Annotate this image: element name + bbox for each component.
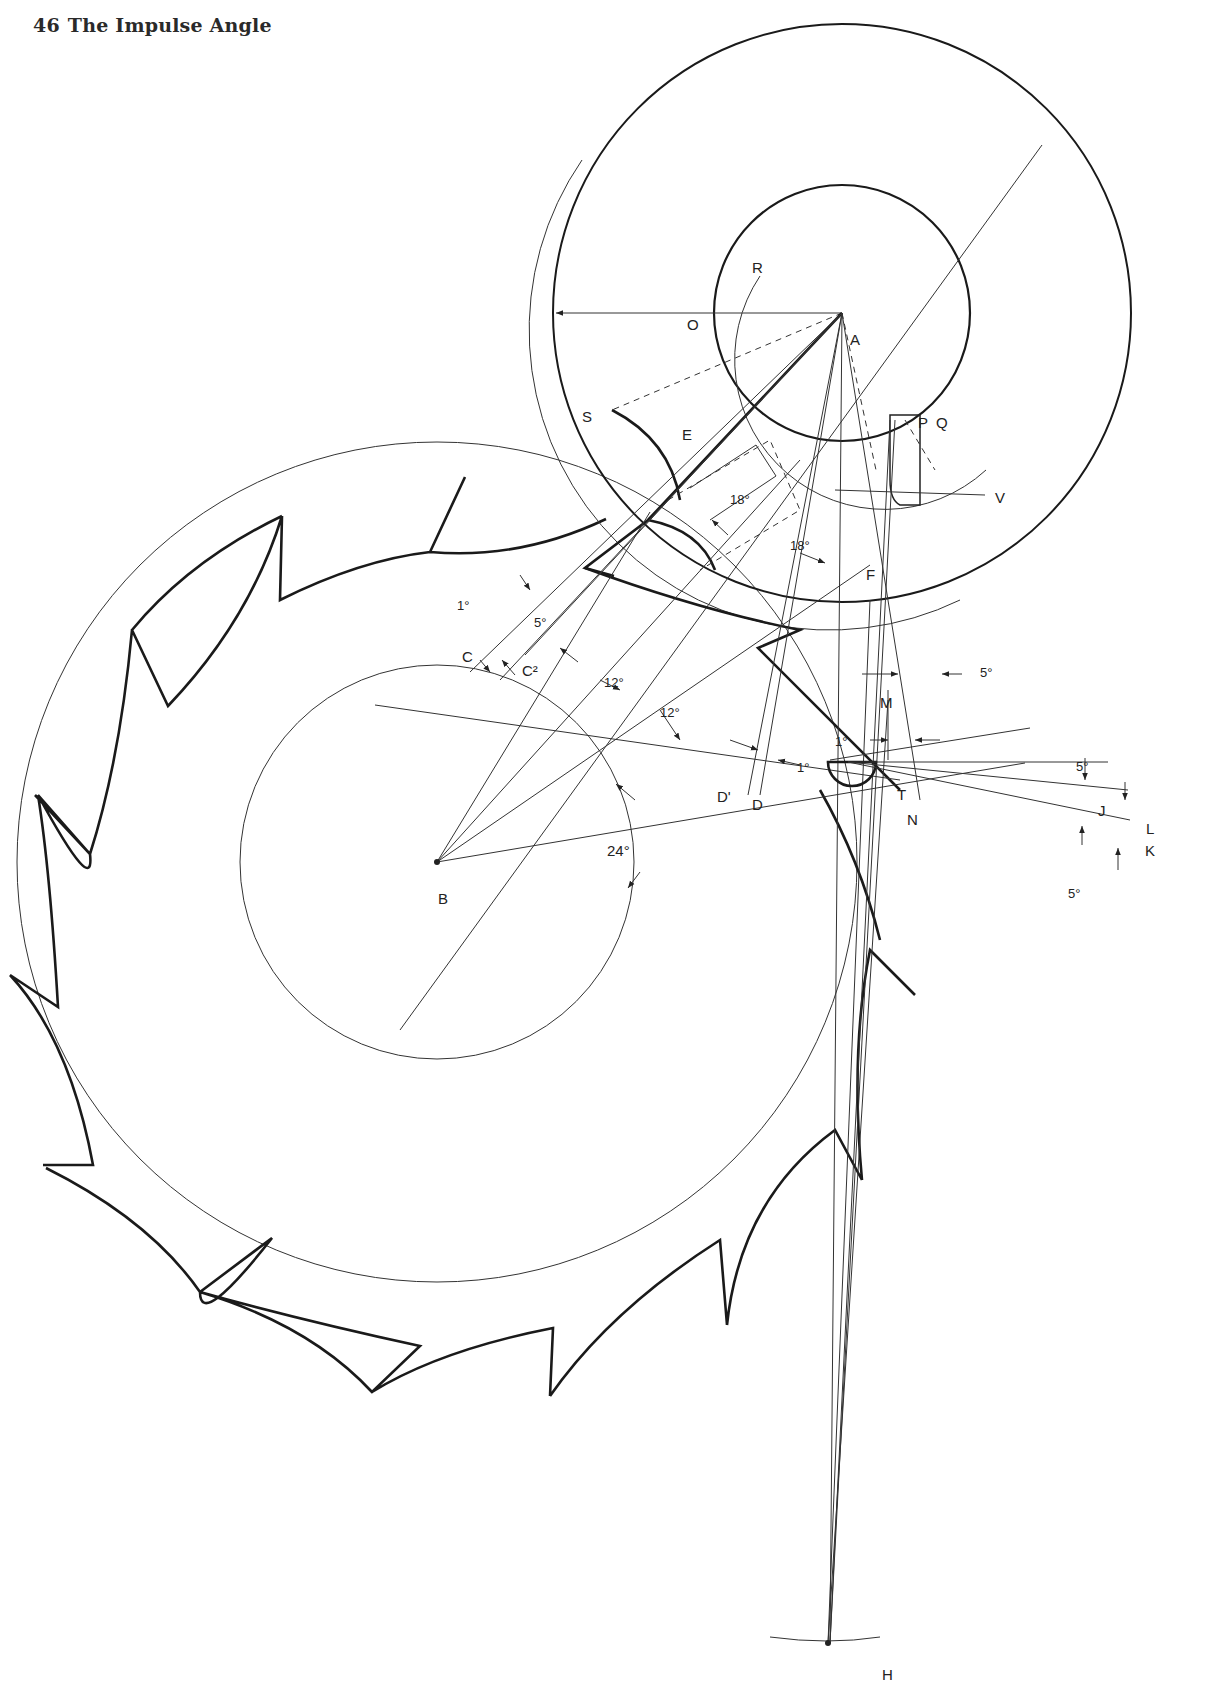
label-F: F	[866, 566, 875, 583]
line-AD1	[748, 313, 842, 795]
pallet-entry	[585, 313, 842, 576]
impulse-box-1	[690, 445, 776, 520]
angle-24deg: 24°	[607, 842, 630, 859]
label-P: P	[918, 414, 928, 431]
escape-wheel-teeth	[10, 477, 915, 1396]
angle-arrows	[480, 520, 1125, 888]
line-through-A-B	[400, 145, 1042, 1030]
label-D: D	[752, 796, 763, 813]
angle-1deg-C: 1°	[457, 598, 469, 613]
label-N: N	[907, 811, 918, 828]
line-A-5deg	[842, 313, 920, 800]
line-B-T	[437, 763, 1025, 862]
angle-18deg-2: 18°	[790, 538, 810, 553]
angle-5deg-top: 5°	[980, 665, 992, 680]
dashed-line-AS	[612, 313, 842, 410]
label-B: B	[438, 890, 448, 907]
label-C2: C²	[522, 662, 538, 679]
angle-18deg-1: 18°	[730, 492, 750, 507]
impulse-angle-diagram: A B C C² D D' E F H J K L M N O P Q R S …	[0, 0, 1208, 1686]
label-C: C	[462, 648, 473, 665]
label-O: O	[687, 316, 699, 333]
label-R: R	[752, 259, 763, 276]
angle-1deg-D: 1°	[797, 760, 809, 775]
line-AD	[760, 313, 842, 795]
pallet-arbor	[400, 24, 1131, 1030]
line-BF	[437, 565, 870, 862]
curve-SE	[612, 410, 680, 500]
radial-lines-A	[470, 313, 985, 1640]
angle-labels: 1° 5° 12° 12° 18° 18° 1° 1° 5° 5° 5° 24°	[457, 492, 1088, 901]
pallet-fork	[585, 313, 920, 790]
label-L: L	[1146, 820, 1154, 837]
angle-5deg-J: 5°	[1076, 759, 1088, 774]
pallet-entry-face	[648, 520, 715, 570]
label-J: J	[1098, 802, 1106, 819]
angle-12deg-2: 12°	[660, 705, 680, 720]
angle-12deg-1: 12°	[604, 675, 624, 690]
label-H: H	[882, 1666, 893, 1683]
line-tangent-T	[375, 705, 900, 780]
label-Q: Q	[936, 414, 948, 431]
line-B-12a	[437, 460, 800, 862]
label-E: E	[682, 426, 692, 443]
label-S: S	[582, 408, 592, 425]
point-labels: A B C C² D D' E F H J K L M N O P Q R S …	[438, 259, 1155, 1683]
escape-wheel	[10, 442, 915, 1396]
lines-to-H	[770, 420, 895, 1646]
arc-R	[735, 276, 986, 509]
label-M: M	[880, 694, 893, 711]
point-H	[825, 1640, 831, 1646]
label-A: A	[850, 331, 860, 348]
arc-H	[770, 1637, 880, 1641]
angle-5deg-K: 5°	[1068, 886, 1080, 901]
line-T-up	[830, 728, 1030, 760]
line-AC2	[525, 313, 842, 655]
point-B	[434, 859, 440, 865]
line-AC	[470, 313, 842, 672]
half-circle-N	[828, 762, 876, 786]
label-D1: D'	[717, 788, 731, 805]
line-V	[835, 490, 985, 495]
angle-1deg-M: 1°	[835, 734, 847, 749]
angle-5deg-C: 5°	[534, 615, 546, 630]
label-T: T	[897, 786, 906, 803]
label-K: K	[1145, 842, 1155, 859]
label-V: V	[995, 489, 1005, 506]
